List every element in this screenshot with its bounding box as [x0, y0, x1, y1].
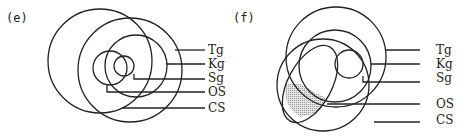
panel-f: (f) Tg Kg Sg OS CS: [233, 7, 454, 131]
panel-e-tag: (e): [6, 11, 28, 25]
label-cs: CS: [208, 101, 225, 115]
sg-circle: [335, 50, 363, 78]
label-sg: Sg: [436, 71, 452, 85]
os-leader: [107, 85, 205, 92]
label-os: OS: [436, 97, 454, 111]
label-sg: Sg: [208, 71, 224, 85]
tg-circle: [286, 7, 386, 107]
label-tg: Tg: [436, 43, 452, 57]
sg-leader: [134, 74, 205, 79]
label-kg: Kg: [436, 57, 453, 71]
venn-diagram-figure: (e) Tg Kg Sg OS CS (f): [0, 0, 460, 138]
panel-e: (e) Tg Kg Sg OS CS: [6, 9, 226, 122]
label-tg: Tg: [208, 43, 224, 57]
panel-f-tag: (f): [233, 11, 255, 25]
sg-leader: [363, 76, 420, 82]
label-kg: Kg: [208, 57, 225, 71]
label-cs: CS: [436, 113, 453, 127]
label-os: OS: [208, 85, 226, 99]
os-ellipse: [271, 37, 349, 132]
